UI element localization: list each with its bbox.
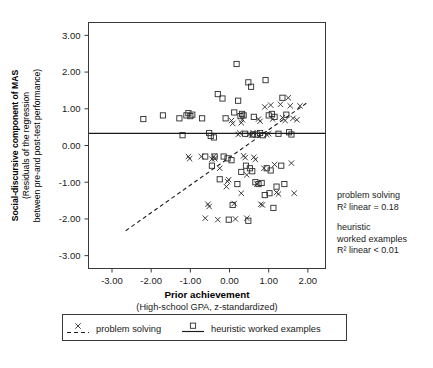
x-tick-label-1: -2.00: [140, 275, 162, 286]
marker-x: [187, 156, 192, 161]
y-tick-label-5: -2.00: [59, 213, 81, 224]
marker-x: [203, 215, 208, 220]
x-axis-title: Prior achievement: [165, 289, 251, 300]
annotation-1-line-0: heuristic: [337, 222, 371, 232]
x-tick-label-0: -3.00: [101, 275, 123, 286]
marker-x: [217, 166, 222, 171]
marker-x: [215, 217, 220, 222]
marker-square: [177, 116, 182, 121]
y-tick-label-6: -3.00: [59, 250, 81, 261]
regression-line-problem-solving: [126, 102, 308, 231]
annotation-1-line-2: R² linear < 0.01: [337, 245, 399, 255]
y-axis-label-line-2: between pre-and post-test performance): [32, 69, 42, 222]
y-tick-label-0: 3.00: [62, 30, 81, 41]
marker-x: [233, 216, 238, 221]
annotation-1-line-1: worked examples: [336, 234, 408, 244]
marker-x: [224, 184, 229, 189]
marker-square: [235, 181, 240, 186]
marker-square: [274, 184, 279, 189]
marker-x: [232, 201, 237, 206]
y-tick-label-2: 1.00: [62, 103, 81, 114]
marker-x: [262, 104, 267, 109]
marker-x: [244, 172, 249, 177]
marker-x: [289, 160, 294, 165]
marker-square: [279, 163, 284, 168]
y-axis-label-line-1: (Residuals of the regression: [21, 92, 31, 199]
marker-square: [271, 205, 276, 210]
annotation-0-line-0: problem solving: [337, 190, 400, 200]
y-tick-label-3: 0.00: [62, 140, 81, 151]
marker-square: [221, 154, 226, 159]
marker-square: [229, 158, 234, 163]
marker-x: [239, 191, 244, 196]
marker-x: [242, 155, 247, 160]
chart-canvas: 3.002.001.000.00-1.00-2.00-3.00-3.00-2.0…: [0, 0, 433, 368]
x-tick-label-3: 0.00: [220, 275, 239, 286]
series-heuristic-worked-examples: [141, 61, 294, 223]
marker-square: [282, 181, 287, 186]
marker-square: [160, 113, 165, 118]
marker-x: [286, 95, 291, 100]
marker-x: [226, 177, 231, 182]
legend-label-1: heuristic worked examples: [211, 324, 321, 334]
x-axis-subtitle: (High-school GPA, z-standardized): [136, 302, 277, 312]
annotation-0-line-1: R² linear = 0.18: [337, 202, 399, 212]
marker-square: [209, 163, 214, 168]
marker-x: [282, 118, 287, 123]
marker-square: [141, 116, 146, 121]
marker-square: [263, 78, 268, 83]
marker-x: [199, 154, 204, 159]
marker-square: [239, 169, 244, 174]
marker-x: [257, 119, 262, 124]
marker-x: [291, 191, 296, 196]
marker-x: [272, 162, 277, 167]
marker-square: [223, 116, 228, 121]
legend-label-0: problem solving: [96, 324, 161, 334]
marker-square: [190, 112, 195, 117]
marker-x: [225, 179, 230, 184]
marker-square: [234, 61, 239, 66]
marker-x: [278, 102, 283, 107]
scatter-plot-figure: 3.002.001.000.00-1.00-2.00-3.00-3.00-2.0…: [0, 0, 433, 368]
legend-marker-square: [190, 323, 195, 328]
y-tick-label-1: 2.00: [62, 66, 81, 77]
x-tick-label-5: 2.00: [299, 275, 318, 286]
data-layer: [89, 61, 326, 230]
y-axis-label-line-0: Social-discursive component of MAS: [10, 70, 20, 222]
marker-square: [217, 177, 222, 182]
marker-square: [226, 217, 231, 222]
legend-marker-x: [75, 323, 80, 328]
marker-square: [251, 114, 256, 119]
marker-square: [280, 95, 285, 100]
marker-x: [206, 204, 211, 209]
x-tick-label-2: -1.00: [180, 275, 202, 286]
y-tick-label-4: -1.00: [59, 177, 81, 188]
marker-square: [232, 110, 237, 115]
marker-square: [200, 116, 205, 121]
marker-square: [236, 98, 241, 103]
marker-x: [288, 103, 293, 108]
marker-x: [276, 191, 281, 196]
plot-frame: [89, 23, 326, 269]
marker-x: [253, 157, 258, 162]
x-tick-label-4: 1.00: [259, 275, 278, 286]
marker-x: [268, 102, 273, 107]
